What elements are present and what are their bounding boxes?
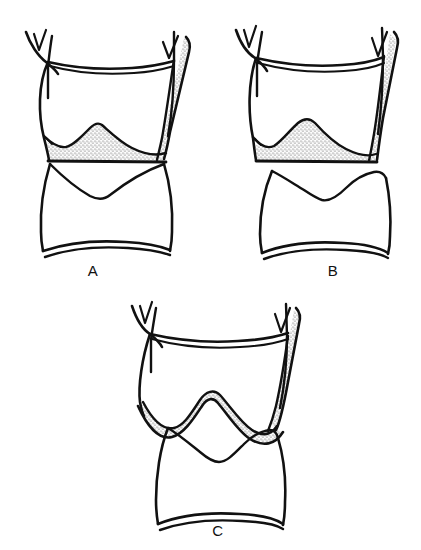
lower-segment-base-inner-b bbox=[264, 249, 388, 259]
figure-b bbox=[222, 10, 421, 260]
hook-right-b bbox=[372, 32, 387, 56]
hook-left-v-a bbox=[34, 30, 46, 50]
body-outline-b bbox=[250, 58, 256, 160]
figure-plate: A bbox=[0, 0, 421, 550]
body-top-edge-a bbox=[48, 61, 174, 69]
figure-a bbox=[8, 10, 208, 260]
ventral-base-a bbox=[48, 161, 166, 162]
lower-segment-c bbox=[156, 428, 168, 524]
body-top-edge-inner-c bbox=[152, 339, 288, 348]
lower-segment-right-c bbox=[278, 438, 285, 525]
lower-segment-right-a bbox=[164, 164, 172, 251]
figure-b-drawing bbox=[222, 10, 421, 260]
ventral-base-b bbox=[256, 161, 377, 162]
lower-segment-apex-b bbox=[272, 171, 386, 200]
body-top-edge-b bbox=[256, 57, 384, 66]
lower-segment-a bbox=[41, 164, 50, 251]
figure-c bbox=[118, 296, 318, 536]
figure-label-c: C bbox=[203, 522, 233, 539]
hook-left-v-b bbox=[244, 26, 256, 47]
figure-c-drawing bbox=[118, 296, 318, 536]
figure-label-a: A bbox=[78, 262, 108, 279]
lower-segment-apex-c bbox=[168, 428, 278, 462]
hook-left-v-c bbox=[140, 302, 152, 323]
figure-label-b: B bbox=[318, 262, 348, 279]
lower-segment-b bbox=[260, 171, 272, 253]
lower-segment-base-inner-a bbox=[45, 247, 170, 257]
hook-right-a bbox=[163, 36, 178, 58]
lower-segment-right-b bbox=[386, 178, 390, 254]
figure-a-drawing bbox=[8, 10, 208, 260]
lower-segment-apex-a bbox=[50, 164, 164, 199]
body-top-edge-c bbox=[150, 333, 288, 342]
stipple-region-b bbox=[254, 119, 376, 162]
body-top-edge-inner-b bbox=[258, 63, 384, 72]
